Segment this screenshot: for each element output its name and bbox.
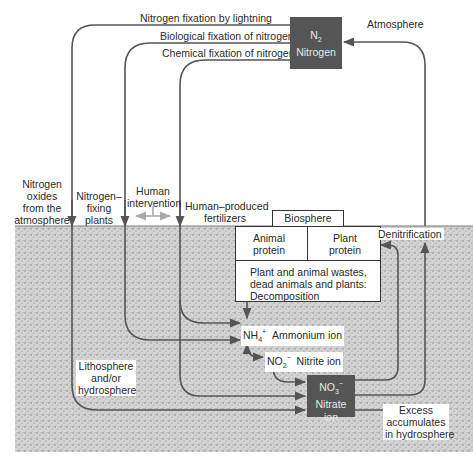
ammonium-ion-label: NH4+ Ammonium ion [241,326,344,346]
biological-fixation-label: Biological fixation of nitrogen [160,30,294,42]
atmosphere-label: Atmosphere [367,18,424,30]
animal-protein: Animalprotein [236,232,302,256]
nitrate-ion-box: NO3− Nitrate ion [307,375,355,417]
nitrogen-oxides-label: Nitrogenoxidesfrom theatmosphere [14,178,70,226]
n2-formula: N2 [290,29,342,46]
nitrogen-fixing-plants-label: Nitrogen–fixingplants [76,190,122,226]
lithosphere-label: Lithosphereand/orhydrosphere [76,360,136,396]
plant-protein: Plantprotein [312,232,378,256]
chemical-fixation-label: Chemical fixation of nitrogen [162,47,295,59]
human-fertilizers-label: Human–producedfertilizers [185,200,265,224]
decomposition-text: Plant and animal wastes,dead animals and… [250,266,367,302]
nitrogen-cycle-diagram: Nitrogen fixation by lightning Biologica… [0,0,473,462]
n2-name: Nitrogen [290,46,342,59]
lightning-fixation-label: Nitrogen fixation by lightning [140,12,272,24]
excess-hydrosphere-label: Excessaccumulatesin hydrosphere [383,404,449,440]
denitrification-label: Denitrification [376,228,444,240]
biosphere-box: Animalprotein Plantprotein Plant and ani… [235,226,381,302]
n2-nitrogen-box: N2 Nitrogen [290,17,342,69]
human-intervention-label: Humanintervention [127,185,179,209]
nitrite-ion-label: NO2− Nitrite ion [265,352,343,372]
